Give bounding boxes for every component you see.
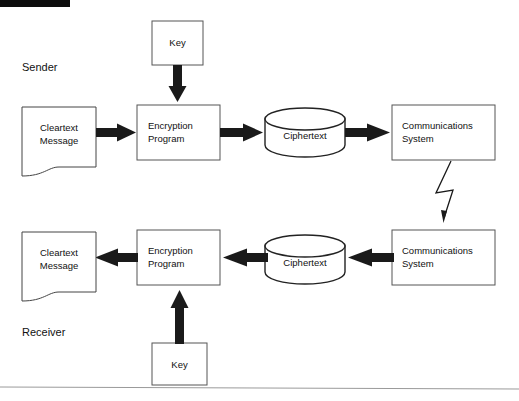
diagram-page: Sender Key Cleartext Message Encryption … [0,0,519,401]
sender-comms-label-line2: System [402,133,434,144]
arrow-sender-program-to-ciphertext [220,124,263,142]
receiver-cleartext-label-line1: Cleartext [40,247,78,258]
receiver-key-node: Key [152,343,207,385]
receiver-ciphertext-node: Ciphertext [265,235,345,284]
receiver-program-label-line1: Encryption [148,245,193,256]
receiver-ciphertext-label: Ciphertext [283,257,327,268]
receiver-ciphertext-cylinder-top [265,235,345,257]
sender-encryption-program-node: Encryption Program [137,105,220,160]
arrow-sender-cleartext-to-program [96,124,136,142]
sender-cleartext-label-line1: Cleartext [40,122,78,133]
sender-program-label-line1: Encryption [148,120,193,131]
arrow-sender-key-to-program [169,65,187,102]
footer-divider [0,387,519,389]
sender-key-node: Key [152,21,203,65]
sender-cleartext-node: Cleartext Message [22,107,96,176]
sender-comms-system-node: Communications System [392,105,495,160]
sender-ciphertext-label: Ciphertext [283,130,327,141]
receiver-cleartext-node: Cleartext Message [22,232,96,301]
receiver-key-label: Key [171,359,188,370]
receiver-comms-system-node: Communications System [392,230,495,285]
arrow-receiver-ciphertext-to-program [223,249,268,267]
receiver-encryption-program-node: Encryption Program [137,230,220,285]
arrow-receiver-key-to-program [171,290,189,344]
arrow-sender-ciphertext-to-comms [345,124,390,142]
receiver-comms-label-line1: Communications [402,245,473,256]
sender-program-label-line2: Program [148,133,185,144]
encryption-flow-diagram: Sender Key Cleartext Message Encryption … [0,0,519,401]
sender-cleartext-label-line2: Message [40,135,79,146]
sender-label: Sender [22,61,58,73]
arrow-receiver-comms-to-ciphertext [348,249,394,267]
receiver-cleartext-label-line2: Message [40,260,79,271]
lightning-bolt-icon [436,161,453,218]
arrow-receiver-program-to-cleartext [95,249,138,267]
receiver-comms-label-line2: System [402,258,434,269]
transmission-lightning-bolt-connector [436,161,453,223]
header-bar [0,0,70,7]
sender-comms-label-line1: Communications [402,120,473,131]
sender-ciphertext-node: Ciphertext [265,108,345,157]
lightning-bolt-arrowhead [441,210,447,223]
receiver-label: Receiver [22,326,66,338]
sender-ciphertext-cylinder-top [265,108,345,130]
sender-key-label: Key [169,37,186,48]
receiver-program-label-line2: Program [148,258,185,269]
